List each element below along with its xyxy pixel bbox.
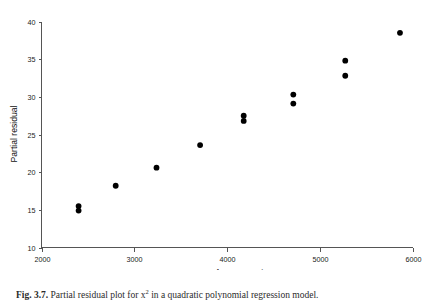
figure-caption: Fig. 3.7. Partial residual plot for x2 i… xyxy=(16,286,436,301)
y-tick-label: 20 xyxy=(28,168,36,177)
x-axis: 20003000400050006000 Square of concentra… xyxy=(35,248,422,271)
y-tick-group: 10152025303540 xyxy=(28,18,42,253)
scatter-plot: 10152025303540 Partial residual 20003000… xyxy=(0,0,436,270)
y-axis-title: Partial residual xyxy=(9,105,19,162)
data-point xyxy=(241,118,247,124)
x-tick-label: 4000 xyxy=(220,255,236,264)
data-point xyxy=(197,142,203,148)
data-point xyxy=(113,183,119,189)
x-tick-label: 2000 xyxy=(35,255,51,264)
y-tick-label: 35 xyxy=(28,55,36,64)
data-point xyxy=(397,30,403,36)
data-point xyxy=(342,58,348,64)
x-tick-group: 20003000400050006000 xyxy=(35,248,422,264)
x-tick-label: 3000 xyxy=(127,255,143,264)
x-axis-title: Square of concentration xyxy=(181,268,272,270)
data-point xyxy=(290,101,296,107)
data-point xyxy=(241,113,247,119)
y-tick-label: 15 xyxy=(28,206,36,215)
caption-label: Fig. 3.7. xyxy=(16,290,48,300)
data-point-group xyxy=(76,30,403,214)
data-point xyxy=(342,73,348,79)
x-tick-label: 6000 xyxy=(406,255,422,264)
x-tick-label: 5000 xyxy=(313,255,329,264)
data-point xyxy=(154,165,160,171)
data-point xyxy=(290,92,296,98)
data-point xyxy=(76,208,82,214)
y-tick-label: 10 xyxy=(28,244,36,253)
y-axis: 10152025303540 Partial residual xyxy=(9,18,42,253)
y-tick-label: 40 xyxy=(28,18,36,27)
caption-body: Partial residual plot for x xyxy=(51,290,146,300)
y-tick-label: 25 xyxy=(28,131,36,140)
caption-tail: in a quadratic polynomial regression mod… xyxy=(149,290,319,300)
y-tick-label: 30 xyxy=(28,93,36,102)
